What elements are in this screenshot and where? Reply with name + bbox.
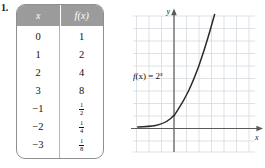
grid-lines bbox=[133, 16, 255, 152]
problem-number: 1. bbox=[1, 2, 8, 13]
table-cell-fx: 1 bbox=[60, 28, 103, 46]
table-cell-x: 0 bbox=[17, 28, 59, 46]
fraction-denominator: 2 bbox=[79, 109, 84, 117]
fraction-denominator: 4 bbox=[79, 127, 84, 135]
table-column-x: 0 1 2 3 −1 −2 −3 bbox=[17, 26, 60, 158]
exponential-graph: y x f(x) = 2x bbox=[131, 2, 265, 166]
fraction: 1 2 bbox=[79, 102, 84, 116]
table-header-fx: f(x) bbox=[61, 5, 104, 26]
value-table-box: x f(x) 0 1 2 3 −1 −2 −3 1 2 bbox=[16, 4, 104, 159]
fraction: 1 4 bbox=[79, 120, 84, 134]
table-column-fx: 1 2 4 8 1 2 1 4 bbox=[60, 26, 103, 158]
y-axis-label: y bbox=[166, 7, 171, 16]
value-table: x f(x) 0 1 2 3 −1 −2 −3 1 2 bbox=[16, 4, 104, 162]
function-label-equals: = 2 bbox=[146, 71, 160, 81]
fraction-numerator: 1 bbox=[79, 120, 84, 127]
table-cell-x: −2 bbox=[17, 118, 59, 136]
table-cell-fx: 1 8 bbox=[60, 136, 103, 154]
table-cell-x: −3 bbox=[17, 136, 59, 154]
function-label-exponent: x bbox=[159, 71, 163, 77]
table-cell-x: 3 bbox=[17, 82, 59, 100]
table-cell-fx: 8 bbox=[60, 82, 103, 100]
fraction-numerator: 1 bbox=[79, 102, 84, 109]
fraction-denominator: 8 bbox=[79, 145, 84, 153]
table-cell-x: −1 bbox=[17, 100, 59, 118]
fraction: 1 8 bbox=[79, 138, 84, 152]
function-label-arg: (x) bbox=[136, 71, 147, 81]
table-cell-fx: 2 bbox=[60, 46, 103, 64]
table-cell-x: 1 bbox=[17, 46, 59, 64]
table-cell-fx: 1 2 bbox=[60, 100, 103, 118]
table-body: 0 1 2 3 −1 −2 −3 1 2 4 8 bbox=[17, 26, 103, 158]
worksheet-page: 1. x f(x) 0 1 2 3 −1 −2 −3 bbox=[0, 0, 265, 168]
table-cell-fx: 1 4 bbox=[60, 118, 103, 136]
table-cell-x: 2 bbox=[17, 64, 59, 82]
table-header-x: x bbox=[17, 5, 61, 26]
graph-panel: y x f(x) = 2x bbox=[131, 2, 265, 166]
table-header-row: x f(x) bbox=[17, 5, 103, 26]
x-axis-label: x bbox=[254, 133, 259, 142]
y-axis bbox=[171, 9, 177, 153]
fraction-numerator: 1 bbox=[79, 138, 84, 145]
table-cell-fx: 4 bbox=[60, 64, 103, 82]
function-label: f(x) = 2x bbox=[133, 71, 163, 82]
